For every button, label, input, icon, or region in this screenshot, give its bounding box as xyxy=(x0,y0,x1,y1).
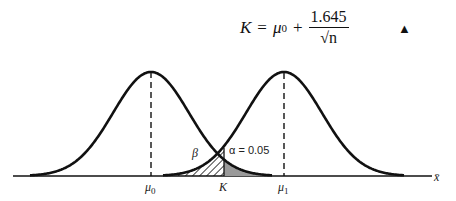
mu1-label: μ1 xyxy=(277,180,289,196)
beta-label: β xyxy=(191,146,198,160)
mu0-label: μ0 xyxy=(144,180,156,196)
alpha-label: α = 0.05 xyxy=(229,144,269,156)
k-label: K xyxy=(218,180,228,194)
x-axis-label: x̄ xyxy=(433,170,440,184)
distribution-diagram: μ0 K μ1 β α = 0.05 x̄ xyxy=(0,0,456,201)
